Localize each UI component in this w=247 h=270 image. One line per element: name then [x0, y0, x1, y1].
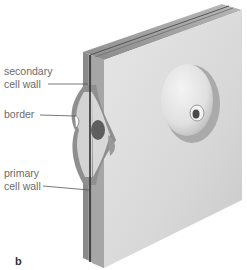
label-line: cell wall — [4, 180, 41, 193]
label-border: border — [4, 108, 34, 121]
bordered-pit-diagram — [0, 0, 247, 270]
leader-border — [40, 115, 76, 116]
label-secondary-cell-wall: secondary cell wall — [4, 65, 52, 91]
label-line: primary — [4, 167, 41, 180]
leader-primary-cell-wall — [43, 186, 89, 190]
label-line: secondary — [4, 65, 52, 78]
label-line: border — [4, 108, 34, 121]
label-primary-cell-wall: primary cell wall — [4, 167, 41, 193]
panel-letter: b — [15, 255, 22, 267]
label-line: cell wall — [4, 78, 52, 91]
